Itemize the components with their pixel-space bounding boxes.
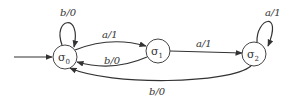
state-s1: σ1 bbox=[146, 39, 170, 63]
state-s1-subscript: 1 bbox=[159, 52, 163, 60]
edge-label-s1-s0: b/0 bbox=[104, 55, 121, 66]
state-s2: σ2 bbox=[242, 42, 266, 66]
state-s0: σ0 bbox=[53, 45, 77, 69]
edge-s2-s2 bbox=[257, 21, 273, 46]
state-s0-subscript: 0 bbox=[66, 58, 70, 66]
edge-label-s0-s0: b/0 bbox=[60, 7, 77, 18]
edge-label-s1-s2: a/1 bbox=[196, 38, 212, 49]
edge-s2-s0 bbox=[70, 66, 251, 81]
state-s2-subscript: 2 bbox=[255, 55, 259, 63]
edge-label-s2-s2: a/1 bbox=[265, 7, 281, 18]
edge-label-s0-s1: a/1 bbox=[102, 29, 118, 40]
edge-s0-s0 bbox=[60, 23, 75, 47]
edge-s1-s2 bbox=[170, 51, 242, 53]
edge-s0-s1 bbox=[75, 42, 146, 50]
state-diagram: b/0 a/1 b/0 a/1 a/1 b/0 σ0 σ1 σ2 bbox=[0, 0, 293, 99]
edge-label-s2-s0: b/0 bbox=[149, 86, 166, 97]
